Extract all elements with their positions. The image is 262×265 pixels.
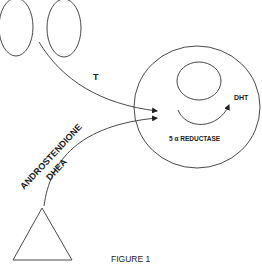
t-label: T — [93, 72, 99, 82]
figure-caption: FIGURE 1 — [111, 254, 150, 264]
cell-outer-circle — [134, 46, 260, 168]
figure-diagram: T DHT 5 α REDUCTASE ANDROSTENDIONE DHEA … — [0, 0, 262, 265]
adrenal-triangle — [13, 208, 72, 260]
right-oval — [47, 0, 81, 57]
left-oval — [0, 0, 33, 56]
conversion-arrow — [178, 105, 229, 124]
cell-nucleus-circle — [177, 62, 221, 100]
reductase-label: 5 α REDUCTASE — [169, 135, 221, 142]
dht-label: DHT — [234, 94, 249, 101]
